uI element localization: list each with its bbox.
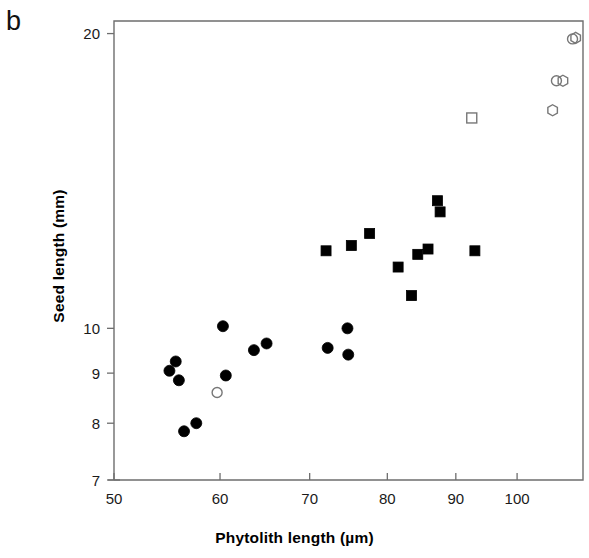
data-point-filled-circle <box>170 356 181 367</box>
data-point-filled-square <box>346 241 356 251</box>
figure-panel-b: b 50607080901007891020 Phytolith length … <box>0 0 589 558</box>
series-filled-square <box>321 196 480 301</box>
data-point-filled-circle <box>173 375 184 386</box>
x-axis-tick-label: 60 <box>212 490 229 507</box>
data-point-filled-square <box>393 262 403 272</box>
x-axis-tick-label: 100 <box>505 490 530 507</box>
y-axis-tick-label: 8 <box>92 415 100 432</box>
x-axis-tick-label: 70 <box>301 490 318 507</box>
data-point-open-hexagon <box>558 75 568 86</box>
data-point-filled-square <box>435 207 445 217</box>
y-axis-tick-label: 20 <box>83 25 100 42</box>
scatter-plot: 50607080901007891020 <box>0 0 589 558</box>
y-axis-tick-label: 9 <box>92 365 100 382</box>
data-point-filled-circle <box>322 342 333 353</box>
y-axis-title: Seed length (mm) <box>50 126 68 386</box>
data-point-filled-square <box>365 228 375 238</box>
series-open-square <box>467 113 477 123</box>
data-point-filled-circle <box>261 338 272 349</box>
data-point-filled-square <box>321 246 331 256</box>
data-point-filled-circle <box>343 349 354 360</box>
data-point-filled-square <box>413 249 423 259</box>
x-axis-title: Phytolith length (µm) <box>0 529 589 547</box>
data-point-filled-circle <box>342 323 353 334</box>
data-point-open-square <box>467 113 477 123</box>
data-point-filled-circle <box>164 365 175 376</box>
data-point-open-hexagon <box>571 32 581 43</box>
data-point-filled-circle <box>220 370 231 381</box>
series-open-hexagon <box>548 32 581 115</box>
data-point-filled-square <box>470 246 480 256</box>
data-point-filled-square <box>407 291 417 301</box>
data-point-filled-circle <box>217 321 228 332</box>
y-axis-tick-label: 10 <box>83 320 100 337</box>
data-point-filled-circle <box>179 426 190 437</box>
data-point-filled-square <box>423 244 433 254</box>
data-point-filled-square <box>432 196 442 206</box>
data-point-open-circle <box>212 387 222 397</box>
data-point-filled-circle <box>248 345 259 356</box>
data-point-open-hexagon <box>548 105 558 116</box>
data-point-filled-circle <box>191 418 202 429</box>
series-filled-circle <box>164 321 354 437</box>
x-axis-tick-label: 90 <box>447 490 464 507</box>
y-axis-tick-label: 7 <box>92 472 100 489</box>
x-axis-tick-label: 80 <box>379 490 396 507</box>
x-axis-tick-label: 50 <box>106 490 123 507</box>
